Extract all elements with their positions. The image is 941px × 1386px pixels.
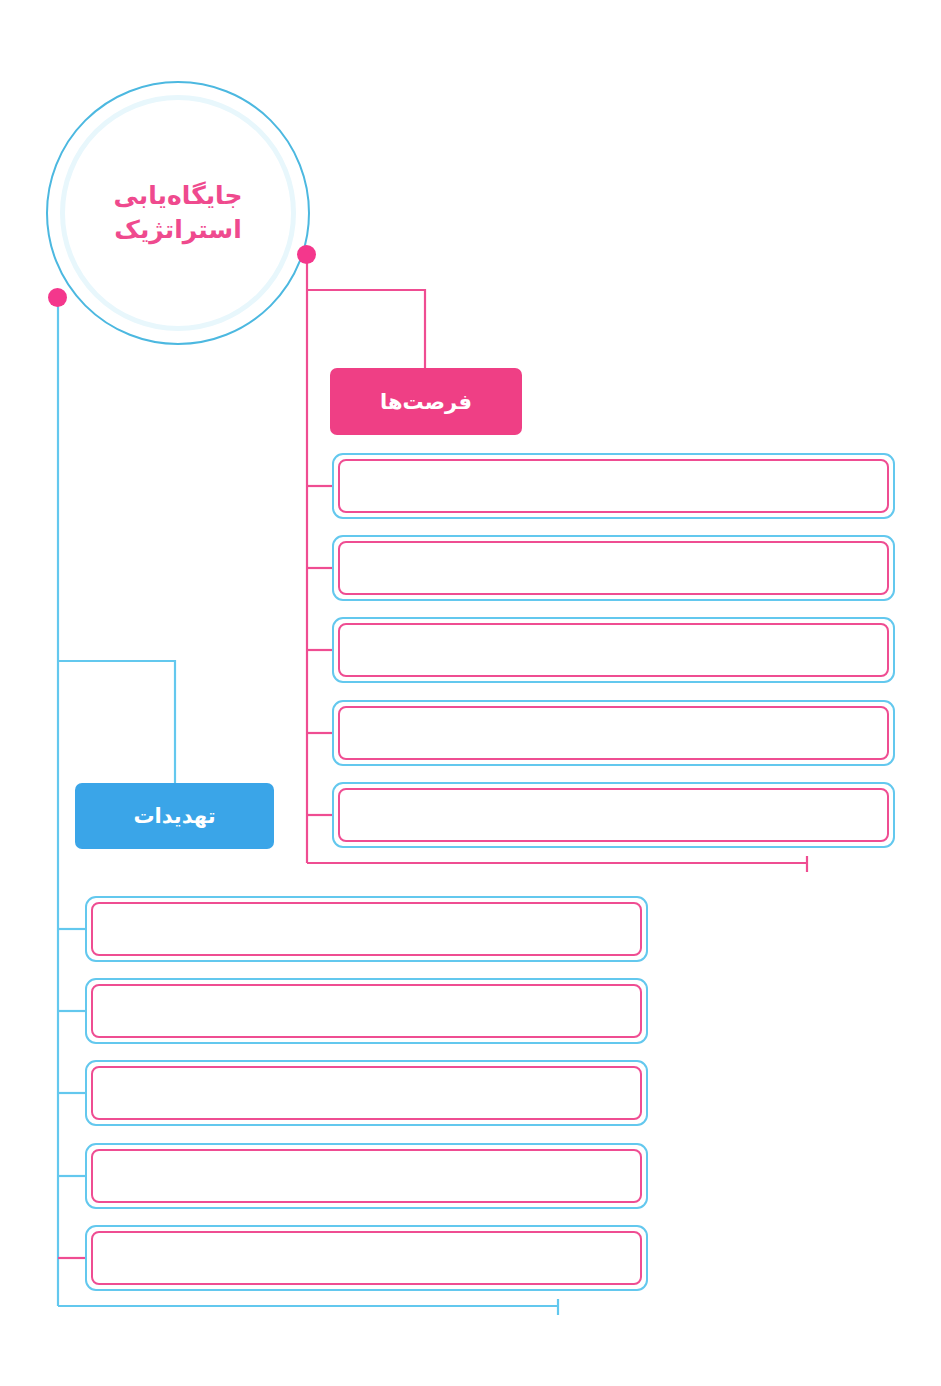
opportunity-item-box[interactable] (332, 782, 895, 848)
hub-circle: جایگاه‌یابی استراتژیک (46, 81, 310, 345)
threat-item-box[interactable] (85, 978, 648, 1044)
category-label-threats[interactable]: تهدیدات (75, 783, 274, 849)
opportunity-item-box[interactable] (332, 700, 895, 766)
opportunity-item-box[interactable] (332, 453, 895, 519)
threats-pill-connector (58, 661, 175, 785)
category-label-opportunities[interactable]: فرصت‌ها (330, 368, 522, 435)
opportunity-item-box[interactable] (332, 535, 895, 601)
hub-junction-dot-opportunities (297, 245, 316, 264)
hub-label-line2: استراتژیک (114, 213, 241, 248)
threat-item-box[interactable] (85, 1060, 648, 1126)
opportunity-item-box[interactable] (332, 617, 895, 683)
threat-item-box[interactable] (85, 1225, 648, 1291)
diagram-canvas: جایگاه‌یابی استراتژیک فرصت‌ها تهدیدات (0, 0, 941, 1386)
hub-junction-dot-threats (48, 288, 67, 307)
threat-item-box[interactable] (85, 896, 648, 962)
threat-item-box[interactable] (85, 1143, 648, 1209)
hub-label-line1: جایگاه‌یابی (114, 179, 243, 214)
opportunities-pill-connector (307, 290, 425, 370)
hub-label: جایگاه‌یابی استراتژیک (48, 83, 308, 343)
